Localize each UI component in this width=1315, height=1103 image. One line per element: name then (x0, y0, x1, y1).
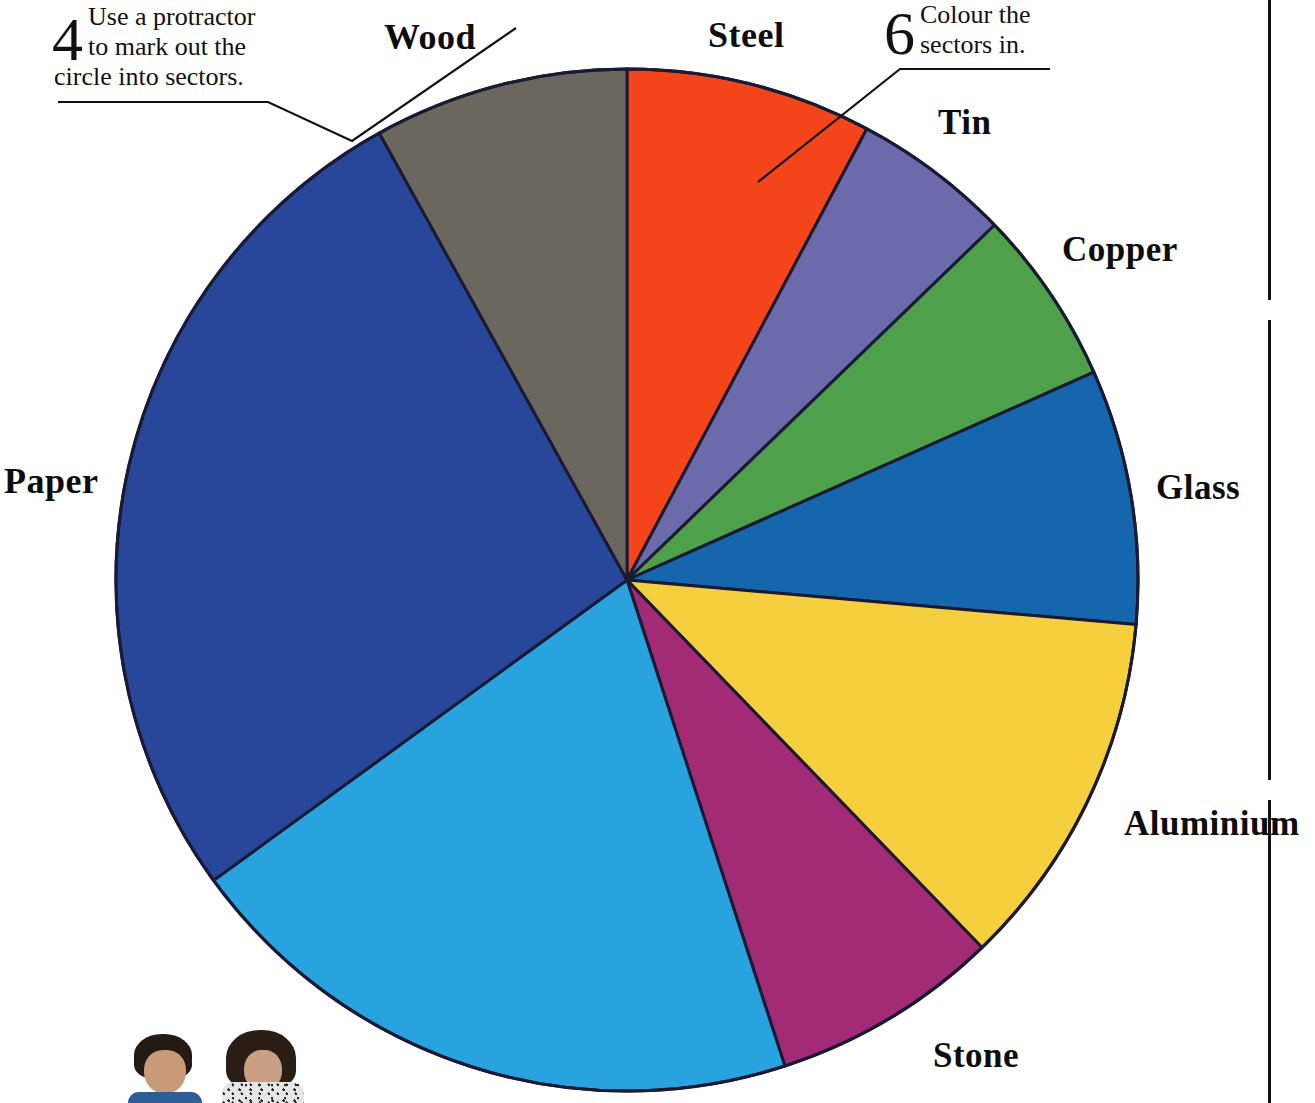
boy-face (144, 1050, 186, 1094)
pie-slices (116, 69, 1138, 1091)
page-root: Wood Steel Tin Copper Glass Aluminium St… (0, 0, 1315, 1103)
annotation-step-6-number: 6 (884, 2, 915, 64)
annotation-step-6-line1: Colour the (920, 0, 1031, 29)
pie-chart (0, 0, 1315, 1103)
child-boy (128, 1030, 202, 1103)
children-photo (100, 1030, 330, 1103)
margin-rule-top (1268, 0, 1271, 300)
annotation-step-6-line2: sectors in. (920, 30, 1025, 59)
pie-label-stone: Stone (933, 1036, 1019, 1076)
margin-rule-middle (1268, 320, 1271, 780)
annotation-step-4-text: Use a protractor to mark out the circle … (88, 2, 328, 92)
pie-label-aluminium: Aluminium (1124, 804, 1300, 844)
margin-rule-bottom (1268, 800, 1271, 1103)
girl-shirt (222, 1082, 304, 1103)
annotation-step-4-line3: circle into sectors. (54, 62, 328, 92)
pie-chart-svg (0, 0, 1315, 1103)
pie-label-copper: Copper (1062, 230, 1178, 270)
pie-label-paper: Paper (4, 460, 98, 502)
child-girl (222, 1030, 304, 1103)
annotation-step-4-line2: to mark out the (88, 32, 246, 61)
annotation-step-6: 6 Colour the sectors in. (880, 0, 1310, 150)
pie-label-glass: Glass (1156, 468, 1240, 508)
annotation-step-4-line1: Use a protractor (88, 2, 255, 31)
pie-label-steel: Steel (708, 14, 784, 56)
annotation-step-4: 4 Use a protractor to mark out the circl… (0, 0, 420, 150)
boy-shirt (128, 1092, 202, 1103)
annotation-step-6-text: Colour the sectors in. (920, 0, 1160, 60)
annotation-step-4-number: 4 (52, 8, 83, 70)
